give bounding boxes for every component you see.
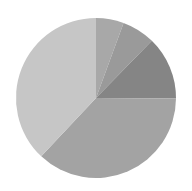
pie-chart [0, 0, 192, 191]
